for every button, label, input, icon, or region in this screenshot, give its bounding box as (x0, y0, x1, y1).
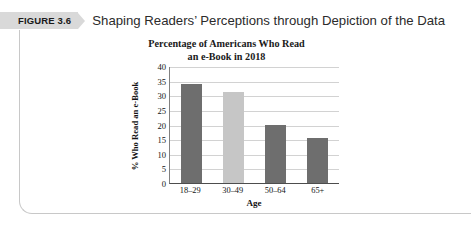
bar-chart: Percentage of Americans Who Read an e-Bo… (0, 34, 453, 214)
figure-caption: Shaping Readers’ Perceptions through Dep… (92, 13, 445, 28)
x-axis-tick-label: 50–64 (258, 186, 292, 195)
y-axis-tick-label: 40 (157, 62, 166, 72)
y-axis-tick-label: 35 (157, 77, 166, 87)
y-axis-tick-label: 0 (162, 179, 166, 189)
bar (265, 125, 286, 184)
plot-wrapper: % Who Read an e-Book 0510152025303540 18… (131, 67, 346, 212)
bar (307, 138, 328, 183)
x-axis-tick-label: 18–29 (173, 186, 207, 195)
chart-title-line-1: Percentage of Americans Who Read (0, 38, 453, 51)
y-axis-tick-label: 5 (162, 164, 166, 174)
chart-title: Percentage of Americans Who Read an e-Bo… (0, 34, 453, 63)
bar-series (170, 67, 339, 183)
y-axis-tick-label: 25 (157, 106, 166, 116)
y-axis-tick-label: 20 (157, 121, 166, 131)
y-axis-tick-label: 30 (157, 91, 166, 101)
plot-area (169, 67, 339, 184)
y-axis-ticks: 0510152025303540 (145, 67, 168, 184)
figure-number-badge: FIGURE 3.6 (0, 12, 78, 29)
x-axis-title: Age (169, 198, 339, 208)
bar (181, 84, 202, 183)
figure-header: FIGURE 3.6 Shaping Readers’ Perceptions … (0, 11, 445, 30)
chart-title-line-2: an e-Book in 2018 (0, 51, 453, 64)
x-axis-tick-label: 30–49 (216, 186, 250, 195)
y-axis-tick-label: 15 (157, 135, 166, 145)
x-axis-ticks: 18–2930–4950–6465+ (169, 186, 339, 195)
x-axis-tick-label: 65+ (301, 186, 335, 195)
badge-arrow-icon (78, 13, 85, 29)
y-axis-title: % Who Read an e-Book (127, 67, 143, 184)
bar (223, 92, 244, 183)
y-axis-title-text: % Who Read an e-Book (130, 81, 140, 170)
y-axis-tick-label: 10 (157, 150, 166, 160)
figure-number-label: FIGURE 3.6 (18, 15, 71, 26)
